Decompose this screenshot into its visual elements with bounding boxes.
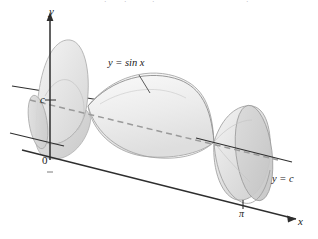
surface-lobe-middle [88, 73, 214, 158]
line-label-y-equals-c: y = c [272, 174, 294, 185]
curve-label-sin: y = sin x [108, 58, 145, 69]
surface-lobe-right [214, 103, 278, 203]
surface-lobe-left [25, 40, 91, 159]
figure-canvas: · · · · [0, 0, 318, 239]
c-tick-label: c [40, 94, 45, 105]
y-axis-label: y [49, 6, 54, 17]
solid-of-revolution-drawing [0, 0, 318, 239]
x-axis-label: x [298, 216, 303, 227]
pi-tick-label: π [239, 209, 244, 219]
origin-label: 0 [42, 155, 48, 166]
